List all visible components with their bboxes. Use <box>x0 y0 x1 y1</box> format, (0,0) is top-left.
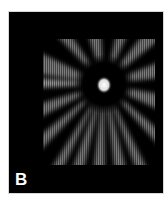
center-spot <box>96 76 112 94</box>
radial-ray-image <box>9 12 163 193</box>
figure-panel: B <box>9 12 163 193</box>
panel-label: B <box>15 171 27 188</box>
